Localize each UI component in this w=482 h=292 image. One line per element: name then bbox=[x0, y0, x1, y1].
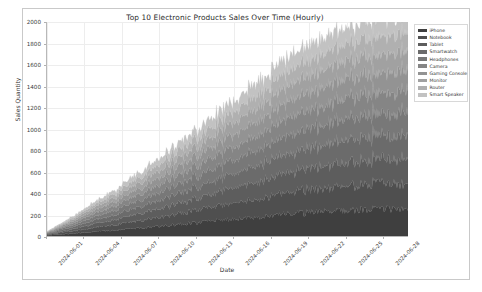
legend-item-label: Notebook bbox=[430, 35, 452, 40]
legend-item-smart-speaker[interactable]: Smart Speaker bbox=[418, 92, 465, 99]
legend-swatch-icon bbox=[418, 50, 427, 54]
legend-swatch-icon bbox=[418, 79, 427, 83]
y-tick-label: 800 bbox=[15, 148, 41, 154]
y-axis-label: Sales Quantity bbox=[14, 65, 21, 135]
legend-item-label: Camera bbox=[430, 64, 448, 69]
legend-swatch-icon bbox=[418, 29, 427, 33]
y-tick-label: 1400 bbox=[15, 84, 41, 90]
x-tick-mark bbox=[121, 237, 122, 239]
legend-item-camera[interactable]: Camera bbox=[418, 63, 465, 70]
legend-item-monitor[interactable]: Monitor bbox=[418, 77, 465, 84]
x-axis-label: Date bbox=[46, 266, 408, 273]
x-tick-mark bbox=[271, 237, 272, 239]
x-tick-mark bbox=[46, 237, 47, 239]
legend-item-label: Smartwatch bbox=[430, 49, 458, 54]
legend-swatch-icon bbox=[418, 64, 427, 68]
plot-area bbox=[46, 22, 408, 237]
legend-swatch-icon bbox=[418, 57, 427, 61]
legend-swatch-icon bbox=[418, 72, 427, 76]
x-tick-mark bbox=[158, 237, 159, 239]
legend-swatch-icon bbox=[418, 86, 427, 90]
legend-swatch-icon bbox=[418, 93, 427, 97]
legend-item-label: Router bbox=[430, 85, 445, 90]
legend-item-label: Tablet bbox=[430, 42, 444, 47]
stacked-area-series bbox=[47, 22, 408, 236]
x-tick-mark bbox=[346, 237, 347, 239]
y-tick-label: 1200 bbox=[15, 105, 41, 111]
legend-item-label: iPhone bbox=[430, 28, 446, 33]
figure: Top 10 Electronic Products Sales Over Ti… bbox=[0, 0, 482, 292]
legend-item-label: Monitor bbox=[430, 78, 447, 83]
y-tick-label: 0 bbox=[15, 234, 41, 240]
y-tick-label: 400 bbox=[15, 191, 41, 197]
x-tick-mark bbox=[233, 237, 234, 239]
y-tick-label: 200 bbox=[15, 213, 41, 219]
legend-item-label: Smart Speaker bbox=[430, 92, 464, 97]
y-tick-label: 600 bbox=[15, 170, 41, 176]
legend-item-gaming-console[interactable]: Gaming Console bbox=[418, 70, 465, 77]
y-tick-label: 2000 bbox=[15, 19, 41, 25]
legend: iPhoneNotebookTabletSmartwatchHeadphones… bbox=[414, 24, 468, 102]
x-tick-mark bbox=[308, 237, 309, 239]
legend-item-smartwatch[interactable]: Smartwatch bbox=[418, 49, 465, 56]
x-tick-mark bbox=[383, 237, 384, 239]
x-tick-mark bbox=[196, 237, 197, 239]
legend-item-tablet[interactable]: Tablet bbox=[418, 41, 465, 48]
legend-item-iphone[interactable]: iPhone bbox=[418, 27, 465, 34]
legend-item-headphones[interactable]: Headphones bbox=[418, 56, 465, 63]
chart-title: Top 10 Electronic Products Sales Over Ti… bbox=[40, 13, 410, 22]
legend-item-notebook[interactable]: Notebook bbox=[418, 34, 465, 41]
y-tick-label: 1800 bbox=[15, 41, 41, 47]
legend-item-router[interactable]: Router bbox=[418, 85, 465, 92]
x-tick-mark bbox=[83, 237, 84, 239]
y-tick-label: 1000 bbox=[15, 127, 41, 133]
y-tick-label: 1600 bbox=[15, 62, 41, 68]
legend-swatch-icon bbox=[418, 36, 427, 40]
legend-swatch-icon bbox=[418, 43, 427, 47]
legend-item-label: Headphones bbox=[430, 57, 459, 62]
legend-item-label: Gaming Console bbox=[430, 71, 468, 76]
